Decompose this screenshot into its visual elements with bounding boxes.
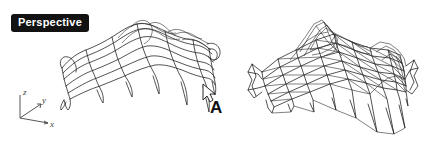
- surface-right-edge-fold: [207, 43, 220, 61]
- axis-label-y: y: [41, 95, 46, 105]
- viewport-label[interactable]: Perspective: [12, 15, 88, 31]
- axis-label-x: x: [49, 119, 54, 129]
- mesh-right-edge-flap: [405, 60, 418, 94]
- axis-label-z: z: [22, 87, 27, 97]
- xyz-axis-indicator: z y x: [20, 87, 54, 129]
- perspective-viewport[interactable]: Perspective A: [0, 0, 432, 144]
- surface-u-isocurves: [62, 24, 215, 99]
- triangulated-polygon-mesh[interactable]: [248, 20, 418, 134]
- smooth-quad-wireframe-surface[interactable]: [60, 20, 220, 112]
- annotation-label-a: A: [210, 99, 222, 116]
- mesh-triangulation-diagonals: [262, 34, 406, 134]
- surface-v-isocurves: [62, 24, 216, 112]
- mesh-left-edge-flap: [248, 64, 265, 98]
- surface-left-edge-curl: [60, 57, 76, 110]
